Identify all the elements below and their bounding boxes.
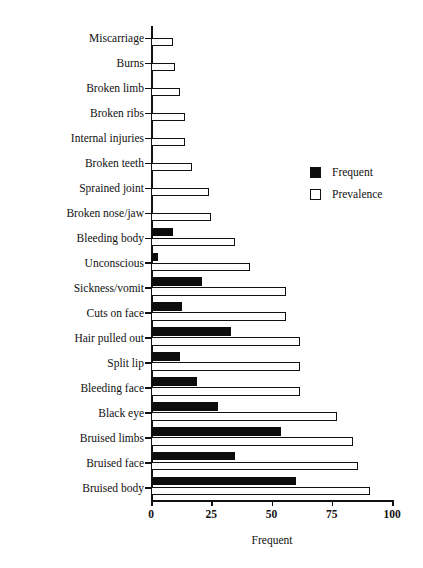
bar-frequent [151,402,218,410]
y-axis-tick-label: Internal injuries [71,132,144,144]
y-axis-tick-label: Broken limb [86,82,144,94]
x-axis-tick [392,500,394,506]
bar-prevalence [151,188,209,196]
legend-label-frequent: Frequent [332,166,373,178]
y-axis-tick-label: Miscarriage [89,32,144,44]
y-axis-tick-label: Broken nose/jaw [66,207,144,219]
x-axis-tick-label: 50 [266,508,278,520]
bar-chart-figure: Nature of Injury MiscarriageBurnsBroken … [0,0,423,568]
y-axis-tick-label: Bleeding face [80,382,144,394]
bar-frequent [151,302,182,310]
x-axis-tick-label: 75 [326,508,338,520]
y-axis-tick-label: Sickness/vomit [74,282,144,294]
x-axis-tick [332,500,334,506]
y-axis-tick-label: Broken teeth [85,157,144,169]
x-axis-tick [211,500,213,506]
bar-prevalence [151,487,370,495]
bar-prevalence [151,88,180,96]
y-axis-tick-label: Hair pulled out [74,332,144,344]
filled-square-icon [310,167,321,178]
y-axis-tick-label: Bruised limbs [80,432,144,444]
bar-prevalence [151,113,185,121]
chart-category-row: Bleeding face [151,375,392,400]
legend-item-frequent: Frequent [310,161,420,183]
y-axis-tick-label: Cuts on face [87,307,144,319]
legend-label-prevalence: Prevalence [332,188,382,200]
chart-category-row: Black eye [151,400,392,425]
y-axis-tick-label: Unconscious [85,257,144,269]
bar-prevalence [151,63,175,71]
bar-prevalence [151,238,235,246]
chart-category-row: Bruised face [151,450,392,475]
bar-frequent [151,277,202,285]
chart-category-row: Bruised body [151,475,392,500]
x-axis-title: Frequent [151,534,393,546]
x-axis-tick [272,500,274,506]
chart-category-row: Broken ribs [151,101,392,126]
bar-prevalence [151,437,353,445]
y-axis-tick-label: Sprained joint [79,182,144,194]
y-axis-tick-label: Bruised body [82,482,144,494]
chart-category-row: Broken limb [151,76,392,101]
bar-frequent [151,352,180,360]
bar-frequent [151,377,197,385]
chart-legend: Frequent Prevalence [310,161,420,205]
bar-prevalence [151,387,300,395]
y-axis-tick-label: Broken ribs [90,107,144,119]
y-axis-tick-label: Black eye [98,407,144,419]
bar-prevalence [151,213,211,221]
bar-frequent [151,253,158,261]
bar-prevalence [151,138,185,146]
bar-frequent [151,452,235,460]
x-axis-tick [151,500,153,506]
bar-prevalence [151,163,192,171]
bar-frequent [151,228,173,236]
x-axis-tick-label: 0 [148,508,154,520]
bar-prevalence [151,412,337,420]
bar-prevalence [151,362,300,370]
y-axis-tick-label: Bleeding body [77,232,144,244]
chart-category-row: Unconscious [151,251,392,276]
x-axis-tick-label: 100 [383,508,400,520]
bar-prevalence [151,263,250,271]
bar-prevalence [151,38,173,46]
chart-category-row: Bleeding body [151,226,392,251]
chart-category-row: Hair pulled out [151,325,392,350]
y-axis-tick-label: Burns [117,57,144,69]
bar-frequent [151,327,231,335]
chart-category-row: Sickness/vomit [151,275,392,300]
chart-category-row: Cuts on face [151,300,392,325]
bar-prevalence [151,312,286,320]
chart-category-row: Miscarriage [151,26,392,51]
y-axis-tick-label: Split lip [107,357,144,369]
legend-item-prevalence: Prevalence [310,183,420,205]
plot-area: MiscarriageBurnsBroken limbBroken ribsIn… [151,26,392,500]
chart-category-row: Bruised limbs [151,425,392,450]
chart-category-row: Split lip [151,350,392,375]
bar-prevalence [151,462,358,470]
bar-frequent [151,477,296,485]
hollow-square-icon [310,189,321,200]
bar-prevalence [151,287,286,295]
y-axis-tick-label: Bruised face [86,457,144,469]
bar-frequent [151,427,281,435]
bar-prevalence [151,337,300,345]
chart-category-row: Internal injuries [151,126,392,151]
chart-category-row: Burns [151,51,392,76]
x-axis-tick-label: 25 [206,508,218,520]
